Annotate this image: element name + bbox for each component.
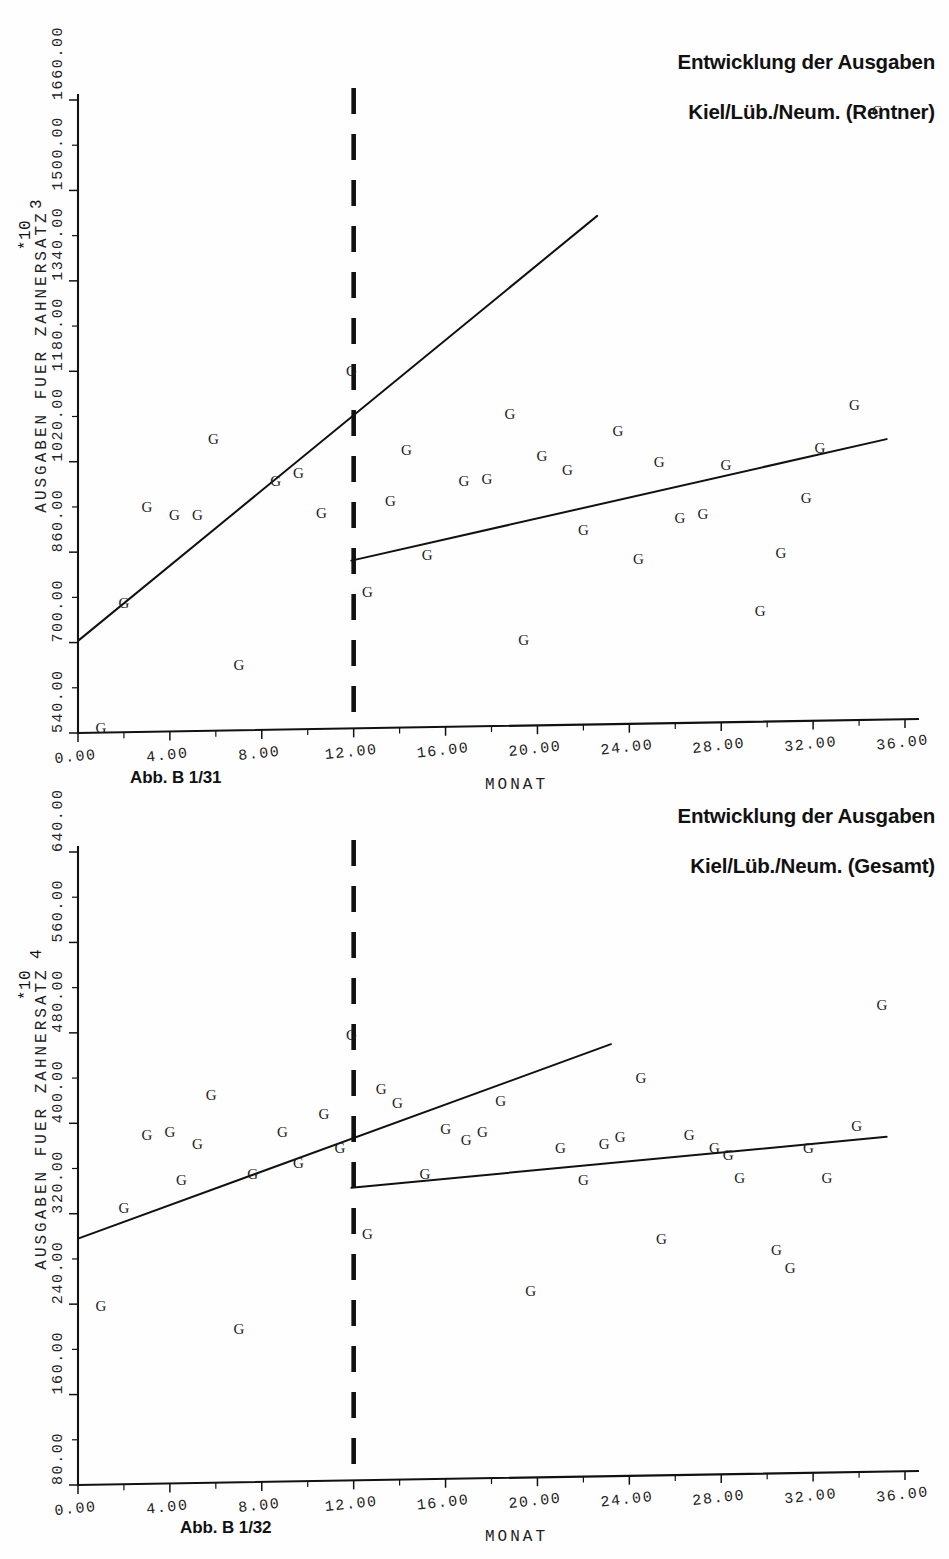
data-point-marker: G xyxy=(851,1118,862,1134)
data-point-marker: G xyxy=(461,1132,472,1148)
x-axis-tick-label: 4.00 xyxy=(146,1497,190,1518)
x-axis-tick-label: 0.00 xyxy=(54,1499,98,1520)
data-point-marker: G xyxy=(537,448,548,464)
data-point-marker: G xyxy=(277,1124,288,1140)
data-point-marker: G xyxy=(318,1106,329,1122)
data-point-marker: G xyxy=(723,1147,734,1163)
regression-pre-intervention-trend xyxy=(78,216,597,641)
data-point-marker: G xyxy=(872,103,883,119)
data-point-marker: G xyxy=(376,1081,387,1097)
data-point-marker: G xyxy=(385,493,396,509)
data-point-marker: G xyxy=(459,473,470,489)
figure-b-1-32: Entwicklung der Ausgaben Kiel/Lüb./Neum.… xyxy=(0,770,949,1559)
x-axis-tick-label: 32.00 xyxy=(783,734,838,756)
data-point-marker: G xyxy=(96,1298,107,1314)
data-point-marker: G xyxy=(247,1166,258,1182)
data-point-marker: G xyxy=(141,499,152,515)
data-point-marker: G xyxy=(803,1140,814,1156)
data-point-marker: G xyxy=(192,1136,203,1152)
data-point-marker: G xyxy=(709,1140,720,1156)
data-point-marker: G xyxy=(392,1095,403,1111)
svg-text:4: 4 xyxy=(28,949,46,959)
y-axis-tick-label: 560.00 xyxy=(50,879,67,943)
x-axis-tick-label: 16.00 xyxy=(416,740,471,762)
data-point-marker: G xyxy=(293,1155,304,1171)
data-point-marker: G xyxy=(208,431,219,447)
y-axis-tick-label: 320.00 xyxy=(50,1150,67,1214)
y-axis-tick-label: 640.00 xyxy=(50,788,67,852)
x-axis-tick-label: 0.00 xyxy=(54,747,98,768)
data-point-marker: G xyxy=(481,471,492,487)
data-point-marker: G xyxy=(734,1170,745,1186)
data-point-marker: G xyxy=(316,505,327,521)
data-point-marker: G xyxy=(555,1140,566,1156)
data-point-marker: G xyxy=(362,1226,373,1242)
y-axis-tick-label: 80.00 xyxy=(50,1432,67,1485)
data-point-marker: G xyxy=(401,442,412,458)
data-point-marker: G xyxy=(119,595,130,611)
data-point-marker: G xyxy=(562,462,573,478)
axis-frame xyxy=(78,846,919,1485)
y-axis-tick-label: 1340.00 xyxy=(50,207,67,281)
x-axis-tick-label: 28.00 xyxy=(692,1487,747,1509)
data-point-marker: G xyxy=(119,1200,130,1216)
y-axis-tick-label: 480.00 xyxy=(50,969,67,1033)
data-point-marker: G xyxy=(141,1127,152,1143)
data-point-marker: G xyxy=(334,1140,345,1156)
x-axis-tick-label: 24.00 xyxy=(600,1489,655,1511)
data-point-marker: G xyxy=(96,720,107,736)
data-point-marker: G xyxy=(477,1124,488,1140)
data-point-marker: G xyxy=(776,545,787,561)
data-point-marker: G xyxy=(674,510,685,526)
chart-canvas-gesamt: 0.004.008.0012.0016.0020.0024.0028.0032.… xyxy=(0,770,949,1559)
data-point-marker: G xyxy=(346,363,357,379)
data-point-marker: G xyxy=(684,1127,695,1143)
data-point-marker: G xyxy=(233,657,244,673)
data-point-marker: G xyxy=(771,1242,782,1258)
data-point-marker: G xyxy=(849,397,860,413)
data-point-marker: G xyxy=(518,632,529,648)
data-point-marker: G xyxy=(346,1027,357,1043)
figure-b-1-31: Entwicklung der Ausgaben Kiel/Lüb./Neum.… xyxy=(0,0,949,800)
data-point-marker: G xyxy=(192,507,203,523)
data-point-marker: G xyxy=(633,551,644,567)
y-axis-tick-label: 700.00 xyxy=(50,579,67,643)
data-point-marker: G xyxy=(164,1124,175,1140)
svg-text:*10: *10 xyxy=(17,220,35,250)
axis-frame xyxy=(78,94,919,733)
y-axis-tick-label: 400.00 xyxy=(50,1060,67,1124)
x-axis-tick-label: 16.00 xyxy=(416,1492,471,1514)
document-page: Entwicklung der Ausgaben Kiel/Lüb./Neum.… xyxy=(0,0,949,1559)
chart-canvas-rentner: 0.004.008.0012.0016.0020.0024.0028.0032.… xyxy=(0,0,949,800)
data-point-marker: G xyxy=(504,406,515,422)
x-axis-tick-label: 28.00 xyxy=(692,735,747,757)
data-point-marker: G xyxy=(578,1172,589,1188)
y-axis-tick-label: 540.00 xyxy=(50,669,67,733)
x-axis-tick-label: 24.00 xyxy=(600,737,655,759)
y-axis-tick-label: 1180.00 xyxy=(50,297,67,371)
svg-text:3: 3 xyxy=(28,199,46,209)
data-point-marker: G xyxy=(615,1129,626,1145)
x-axis-tick-label: 32.00 xyxy=(783,1486,838,1508)
y-axis-label: AUSGABEN FUER ZAHNERSATZ xyxy=(33,967,51,1269)
data-point-marker: G xyxy=(801,490,812,506)
data-point-marker: G xyxy=(755,603,766,619)
svg-text:*10: *10 xyxy=(17,970,35,1000)
y-axis-tick-label: 240.00 xyxy=(50,1241,67,1305)
x-axis-tick-label: 8.00 xyxy=(237,744,281,765)
data-point-marker: G xyxy=(612,423,623,439)
data-point-marker: G xyxy=(656,1231,667,1247)
data-point-marker: G xyxy=(176,1172,187,1188)
data-point-marker: G xyxy=(697,506,708,522)
data-point-marker: G xyxy=(578,522,589,538)
data-point-marker: G xyxy=(270,473,281,489)
data-point-marker: G xyxy=(720,457,731,473)
y-axis-tick-label: 160.00 xyxy=(50,1331,67,1395)
data-point-marker: G xyxy=(877,997,888,1013)
y-axis-tick-label: 860.00 xyxy=(50,489,67,553)
data-point-marker: G xyxy=(422,547,433,563)
x-axis-tick-label: 4.00 xyxy=(146,745,190,766)
data-point-marker: G xyxy=(362,584,373,600)
data-point-marker: G xyxy=(635,1070,646,1086)
y-axis-label: AUSGABEN FUER ZAHNERSATZ xyxy=(33,210,51,512)
